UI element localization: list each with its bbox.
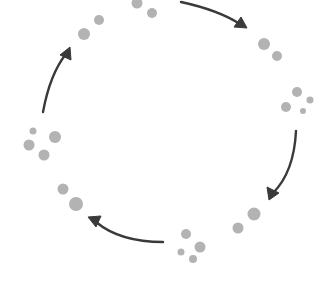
arrow-shaft [181,2,240,24]
dot [258,38,270,50]
dot-cluster-top [132,0,158,18]
dot [307,97,314,104]
dot-cluster-top-left [78,15,104,40]
cycle-diagram-canvas [0,0,317,281]
dot [178,249,185,256]
dot [69,197,83,211]
dot-cluster-top-right [258,38,282,61]
dot [233,223,244,234]
arrow-shaft [43,54,66,112]
dot [272,51,282,61]
dot [58,184,69,195]
dot [181,229,191,239]
dot [132,0,143,9]
dot-cluster-bottom-right [233,208,261,234]
dot-cluster-bottom-left [58,184,84,212]
arrow-bottom-icon [88,216,163,242]
dot-clusters [24,0,314,263]
dot [248,208,261,221]
dot [39,150,50,161]
dot [300,108,306,114]
arrow-left-icon [43,47,71,112]
dot [49,131,61,143]
dot [24,140,35,151]
dot-cluster-right [281,87,314,114]
dot-cluster-bottom [178,229,206,263]
arrow-shaft [273,131,296,193]
dot [147,8,157,18]
arrow-shaft [96,222,163,242]
cycle-diagram [0,0,317,281]
arrow-right-icon [267,131,296,200]
dot [189,255,197,263]
dot [195,242,206,253]
dot [292,87,302,97]
dot [94,15,104,25]
dot [281,102,291,112]
dot [78,28,90,40]
dot [30,128,37,135]
arrow-top-icon [181,2,247,28]
dot-cluster-left [24,128,62,161]
